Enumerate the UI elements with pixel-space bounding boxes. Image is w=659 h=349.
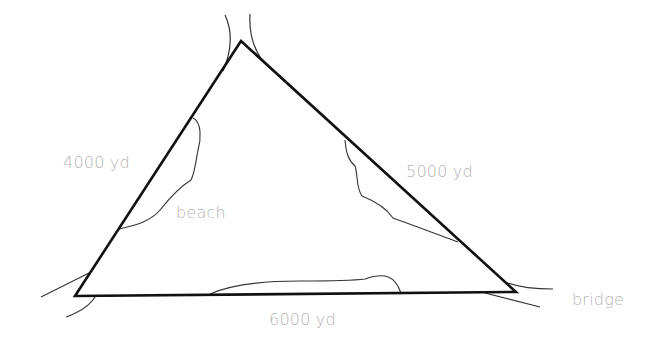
beach-label: beach — [176, 205, 226, 221]
side-length-left-label: 4000 yd — [63, 155, 130, 171]
bridge-label: bridge — [572, 292, 624, 308]
shoreline-bottom — [210, 276, 401, 294]
side-length-right-label: 5000 yd — [406, 164, 473, 180]
river-bank-right-lower — [485, 293, 540, 307]
shoreline-right — [345, 140, 458, 242]
side-length-bottom-label: 6000 yd — [269, 312, 336, 328]
river-bank-left-lower — [66, 297, 95, 317]
triangle-diagram — [0, 0, 659, 349]
